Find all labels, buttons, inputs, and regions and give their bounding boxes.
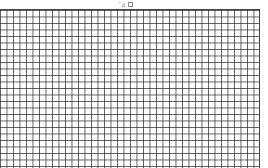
grid-area — [0, 9, 260, 168]
header: ˜д — [118, 0, 133, 9]
square-icon — [128, 2, 133, 7]
header-label: ˜д — [118, 0, 126, 9]
